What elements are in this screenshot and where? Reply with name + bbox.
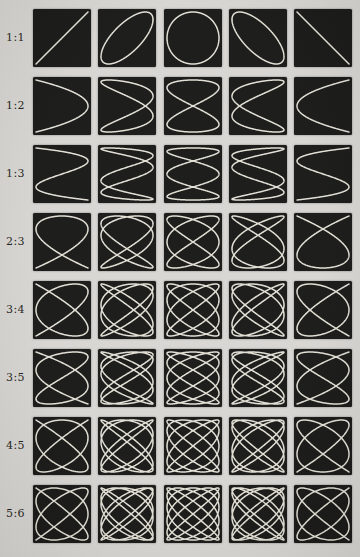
lissajous-curve (294, 349, 352, 407)
lissajous-curve (98, 145, 156, 203)
row-ratio-label: 3:5 (0, 371, 31, 385)
lissajous-curve (294, 213, 352, 271)
lissajous-curve (229, 281, 287, 339)
lissajous-curve (98, 349, 156, 407)
curve-path (101, 352, 153, 404)
lissajous-curve (33, 9, 91, 67)
curve-path (101, 420, 153, 472)
lissajous-curve (98, 213, 156, 271)
lissajous-cell-1-3-phase-45 (98, 145, 156, 203)
curve-path (36, 12, 88, 64)
curve-path (167, 420, 219, 472)
lissajous-cell-3-4-phase-150 (33, 281, 91, 339)
lissajous-curve (33, 349, 91, 407)
row-ratio-label: 1:1 (0, 31, 31, 45)
lissajous-cell-3-5-phase-45 (229, 349, 287, 407)
curve-path (232, 284, 284, 336)
lissajous-cell-2-3-phase-90 (164, 213, 222, 271)
lissajous-cell-5-6-phase-162 (33, 485, 91, 543)
lissajous-cell-1-1-phase-90 (164, 9, 222, 67)
curve-path (167, 352, 219, 404)
curve-path (297, 216, 349, 268)
curve-path (36, 420, 88, 472)
curve-path (167, 488, 219, 540)
curve-path (232, 420, 284, 472)
lissajous-curve (98, 9, 156, 67)
lissajous-cell-2-3-phase-112.5 (229, 213, 287, 271)
curve-path (101, 488, 153, 540)
curve-path (297, 352, 349, 404)
curve-path (297, 12, 349, 64)
curve-path (101, 216, 153, 268)
lissajous-curve (294, 417, 352, 475)
lissajous-curve (229, 417, 287, 475)
curve-path (232, 12, 284, 64)
curve-path (101, 12, 153, 64)
row-ratio-label: 3:4 (0, 303, 31, 317)
lissajous-cell-4-5-phase-281.25 (229, 417, 287, 475)
lissajous-curve (294, 9, 352, 67)
lissajous-cell-2-3-phase-45 (33, 213, 91, 271)
lissajous-cell-5-6-phase-180 (164, 485, 222, 543)
lissajous-curve (294, 145, 352, 203)
lissajous-curve (164, 417, 222, 475)
lissajous-cell-1-3-phase-90 (164, 145, 222, 203)
lissajous-curve (294, 485, 352, 543)
lissajous-cell-5-6-phase-171 (98, 485, 156, 543)
lissajous-cell-2-3-phase-67.5 (98, 213, 156, 271)
lissajous-curve (164, 9, 222, 67)
row-ratio-label: 1:2 (0, 99, 31, 113)
lissajous-figure-page: 1:11:21:32:33:43:54:55:6 (0, 0, 360, 557)
lissajous-curve (294, 281, 352, 339)
curve-path (167, 284, 219, 336)
lissajous-curve (164, 213, 222, 271)
lissajous-curve (33, 281, 91, 339)
lissajous-curve (98, 485, 156, 543)
curve-path (36, 80, 88, 132)
lissajous-cell-3-4-phase-195 (229, 281, 287, 339)
lissajous-curve (229, 77, 287, 135)
lissajous-cell-3-5-phase-15 (98, 349, 156, 407)
lissajous-cell-1-2-phase-135 (98, 77, 156, 135)
lissajous-curve (33, 417, 91, 475)
lissajous-curve (164, 281, 222, 339)
curve-path (36, 352, 88, 404)
curve-path (297, 148, 349, 200)
lissajous-cell-1-1-phase-180 (294, 9, 352, 67)
curve-path (297, 488, 349, 540)
lissajous-curve (33, 145, 91, 203)
lissajous-cell-3-5-phase-0 (33, 349, 91, 407)
lissajous-curve (98, 417, 156, 475)
curve-path (36, 148, 88, 200)
lissajous-cell-3-5-phase-60 (294, 349, 352, 407)
lissajous-curve (164, 77, 222, 135)
lissajous-cell-3-4-phase-210 (294, 281, 352, 339)
lissajous-curve (164, 145, 222, 203)
curve-path (36, 488, 88, 540)
curve-path (167, 216, 219, 268)
lissajous-cell-2-3-phase-135 (294, 213, 352, 271)
curve-path (297, 420, 349, 472)
row-ratio-label: 4:5 (0, 439, 31, 453)
lissajous-cell-3-5-phase-30 (164, 349, 222, 407)
lissajous-cell-1-1-phase-0 (33, 9, 91, 67)
lissajous-cell-1-2-phase-225 (229, 77, 287, 135)
lissajous-curve (229, 485, 287, 543)
curve-path (232, 488, 284, 540)
curve-path (101, 148, 153, 200)
curve-path (232, 216, 284, 268)
lissajous-curve (98, 281, 156, 339)
lissajous-cell-3-4-phase-165 (98, 281, 156, 339)
lissajous-cell-1-3-phase-135 (229, 145, 287, 203)
lissajous-curve (229, 349, 287, 407)
lissajous-cell-1-3-phase-0 (33, 145, 91, 203)
curve-path (297, 80, 349, 132)
lissajous-cell-4-5-phase-247.5 (33, 417, 91, 475)
lissajous-cell-4-5-phase-258.75 (98, 417, 156, 475)
curve-path (297, 284, 349, 336)
lissajous-curve (33, 77, 91, 135)
lissajous-cell-5-6-phase-189 (229, 485, 287, 543)
lissajous-cell-1-1-phase-135 (229, 9, 287, 67)
lissajous-curve (33, 485, 91, 543)
lissajous-curve (229, 213, 287, 271)
